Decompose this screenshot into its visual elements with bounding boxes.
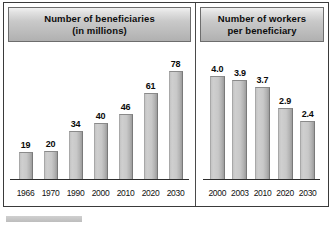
bar-item: 61: [138, 59, 163, 179]
bar-item: 3.7: [251, 59, 274, 179]
x-tick-label: 1966: [13, 188, 38, 198]
bar-value-label: 34: [71, 119, 81, 129]
bar-item: 34: [63, 59, 88, 179]
bar-rect: [19, 152, 33, 179]
figure-container: Number of beneficiaries (in millions) 19…: [3, 2, 329, 207]
bar-rect: [300, 121, 315, 180]
bar-rect: [94, 123, 108, 180]
x-axis-line-right: [203, 179, 320, 180]
x-tick-label: 2010: [113, 188, 138, 198]
chart-title-plate-left: Number of beneficiaries (in millions): [8, 7, 191, 42]
bar-item: 20: [38, 59, 63, 179]
bar-group-left: 19 20 34 40 46: [4, 59, 195, 179]
x-tick-label: 2020: [138, 188, 163, 198]
bar-value-label: 40: [96, 111, 106, 121]
bar-value-label: 3.7: [257, 75, 269, 85]
x-axis-line-left: [10, 179, 189, 180]
bar-value-label: 46: [121, 102, 131, 112]
bar-value-label: 20: [46, 139, 56, 149]
chart-title-right: Number of workers per beneficiary: [218, 13, 306, 36]
chart-panel-workers: Number of workers per beneficiary 4.0 3.…: [195, 3, 328, 206]
bar-rect: [144, 93, 158, 179]
bar-item: 2.4: [296, 59, 319, 179]
bar-value-label: 2.4: [302, 109, 314, 119]
bar-group-right: 4.0 3.9 3.7 2.9 2.4: [196, 59, 328, 179]
x-tick-label: 2020: [274, 188, 297, 198]
bar-item: 19: [13, 59, 38, 179]
x-tick-labels-left: 1966 1970 1990 2000 2010 2020 2030: [4, 188, 195, 198]
caption-strip: [6, 216, 82, 222]
bar-value-label: 3.9: [234, 68, 246, 78]
x-tick-label: 2010: [251, 188, 274, 198]
chart-title-plate-right: Number of workers per beneficiary: [200, 7, 324, 42]
bar-rect: [69, 131, 83, 179]
x-tick-label: 2030: [163, 188, 188, 198]
bar-item: 3.9: [229, 59, 252, 179]
x-tick-label: 1970: [38, 188, 63, 198]
x-tick-label: 1990: [63, 188, 88, 198]
bar-item: 78: [163, 59, 188, 179]
bar-item: 4.0: [206, 59, 229, 179]
bar-rect: [232, 80, 247, 180]
bar-item: 40: [88, 59, 113, 179]
bar-rect: [255, 87, 270, 180]
chart-panel-beneficiaries: Number of beneficiaries (in millions) 19…: [4, 3, 195, 206]
bar-value-label: 2.9: [279, 96, 291, 106]
x-tick-labels-right: 2000 2003 2010 2020 2030: [196, 188, 328, 198]
bar-rect: [44, 151, 58, 179]
bar-rect: [278, 108, 293, 179]
chart-header-wrap-right: Number of workers per beneficiary: [196, 3, 328, 42]
chart-header-wrap-left: Number of beneficiaries (in millions): [4, 3, 195, 42]
bar-rect: [169, 71, 183, 179]
plot-area-left: 19 20 34 40 46: [4, 42, 195, 206]
x-tick-label: 2000: [206, 188, 229, 198]
bar-item: 2.9: [274, 59, 297, 179]
x-tick-label: 2003: [229, 188, 252, 198]
bar-value-label: 4.0: [211, 64, 223, 74]
bar-rect: [119, 114, 133, 179]
bar-value-label: 61: [146, 81, 156, 91]
chart-title-left: Number of beneficiaries (in millions): [44, 13, 155, 36]
bar-value-label: 19: [21, 140, 31, 150]
x-tick-label: 2000: [88, 188, 113, 198]
plot-area-right: 4.0 3.9 3.7 2.9 2.4: [196, 42, 328, 206]
bar-value-label: 78: [171, 59, 181, 69]
bar-item: 46: [113, 59, 138, 179]
bar-rect: [210, 76, 225, 179]
x-tick-label: 2030: [296, 188, 319, 198]
